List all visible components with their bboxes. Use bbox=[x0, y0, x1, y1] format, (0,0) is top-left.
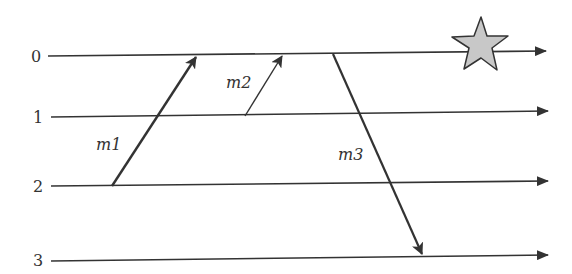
process-label-2: 2 bbox=[33, 177, 43, 196]
message-arrow-m1 bbox=[112, 57, 196, 186]
space-time-diagram: 0 1 2 3 m1 m2 m3 bbox=[0, 0, 572, 274]
star-icon bbox=[452, 17, 508, 70]
message-label-m2: m2 bbox=[226, 73, 251, 92]
process-label-0: 0 bbox=[31, 47, 41, 66]
process-timeline-1 bbox=[51, 111, 548, 117]
process-timeline-2 bbox=[51, 181, 548, 186]
process-label-3: 3 bbox=[33, 251, 43, 270]
message-label-m1: m1 bbox=[96, 135, 121, 154]
process-label-1: 1 bbox=[33, 108, 43, 127]
message-label-m3: m3 bbox=[338, 145, 363, 164]
process-timeline-3 bbox=[51, 255, 548, 261]
